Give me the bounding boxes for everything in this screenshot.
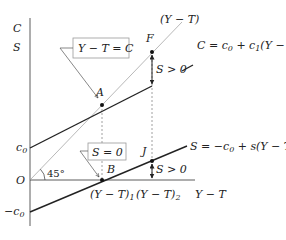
y-axis-label-c: C [13,22,22,35]
origin-label: O [16,174,25,187]
c0-tick-label: c0 [16,141,27,155]
y-axis-label-s: S [13,41,21,54]
neg-c0-tick-label: −c0 [4,205,24,219]
guide-line-label: (Y − T) [160,13,199,26]
saving-function-label: S = −c0 + s(Y − T) [190,140,286,154]
yt1-tick-label: (Y − T)1 [90,188,135,202]
consumption-function-label: C = c0 + c1(Y − T) [197,39,286,53]
x-axis-label: Y − T [195,188,227,201]
point-j-label: J [140,145,147,158]
point-a-label: A [95,86,104,99]
point-b-label: B [106,163,115,176]
lower-saving-gap-label: S > 0 [156,163,187,176]
upper-saving-gap-label: S > 0 [156,63,187,76]
angle-label: 45° [47,168,65,179]
zero-saving-callout-text: S = 0 [92,146,123,159]
consumption-saving-diagram: C S O Y − T c0 −c0 (Y − T) 45° C = c0 + … [0,0,286,240]
yt2-tick-label: (Y − T)2 [136,188,181,202]
angle-arc [40,169,45,180]
point-b [100,178,104,182]
consumption-line [30,86,152,148]
point-f [150,50,154,54]
point-a [100,103,104,107]
point-f-label: F [145,32,154,45]
equality-callout-text: Y − T = C [78,42,134,55]
point-j [150,159,154,163]
